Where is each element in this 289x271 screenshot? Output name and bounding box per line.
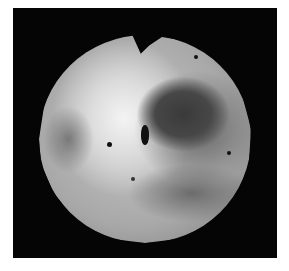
image-frame (13, 8, 277, 258)
dark-spot-lower (131, 177, 135, 181)
dark-spot-right (227, 151, 231, 155)
dark-spot-top-right (194, 55, 198, 59)
dark-spot-small (107, 142, 112, 147)
dark-spot-center (141, 125, 149, 145)
